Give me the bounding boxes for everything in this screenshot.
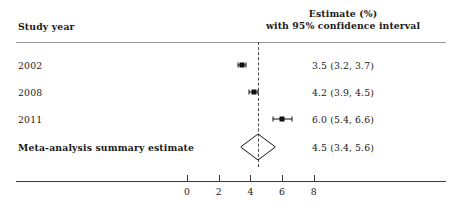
x-axis-line bbox=[16, 181, 446, 182]
row-label: 2002 bbox=[18, 60, 42, 71]
point-estimate-marker bbox=[240, 63, 245, 68]
x-axis-tick bbox=[219, 175, 220, 181]
confidence-interval-cap bbox=[248, 90, 249, 95]
forest-plot: Study year Estimate (%) with 95% confide… bbox=[0, 0, 456, 206]
confidence-interval-cap bbox=[258, 90, 259, 95]
x-axis-tick-label: 6 bbox=[279, 186, 285, 197]
x-axis-tick-label: 4 bbox=[247, 186, 253, 197]
column-header-estimate: Estimate (%) with 95% confidence interva… bbox=[243, 8, 443, 33]
row-estimate-value: 4.2 (3.9, 4.5) bbox=[243, 87, 443, 98]
confidence-interval-cap bbox=[245, 63, 246, 68]
confidence-interval-cap bbox=[272, 117, 273, 122]
column-header-estimate-line2: with 95% confidence interval bbox=[243, 20, 443, 32]
summary-diamond bbox=[241, 134, 276, 160]
confidence-interval-cap bbox=[237, 63, 238, 68]
point-estimate-marker bbox=[251, 90, 256, 95]
row-label: 2011 bbox=[18, 114, 42, 125]
x-axis-tick bbox=[314, 175, 315, 181]
row-label: Meta-analysis summary estimate bbox=[18, 142, 194, 153]
column-header-study-year: Study year bbox=[18, 21, 75, 32]
header-rule bbox=[16, 42, 446, 43]
point-estimate-marker bbox=[280, 117, 285, 122]
column-header-estimate-line1: Estimate (%) bbox=[243, 8, 443, 20]
x-axis-tick-label: 0 bbox=[184, 186, 190, 197]
x-axis-tick bbox=[282, 175, 283, 181]
row-estimate-value: 3.5 (3.2, 3.7) bbox=[243, 60, 443, 71]
x-axis-tick-label: 8 bbox=[311, 186, 317, 197]
x-axis-tick bbox=[250, 175, 251, 181]
confidence-interval-cap bbox=[291, 117, 292, 122]
x-axis-tick-label: 2 bbox=[216, 186, 222, 197]
row-label: 2008 bbox=[18, 87, 42, 98]
x-axis-tick bbox=[187, 175, 188, 181]
